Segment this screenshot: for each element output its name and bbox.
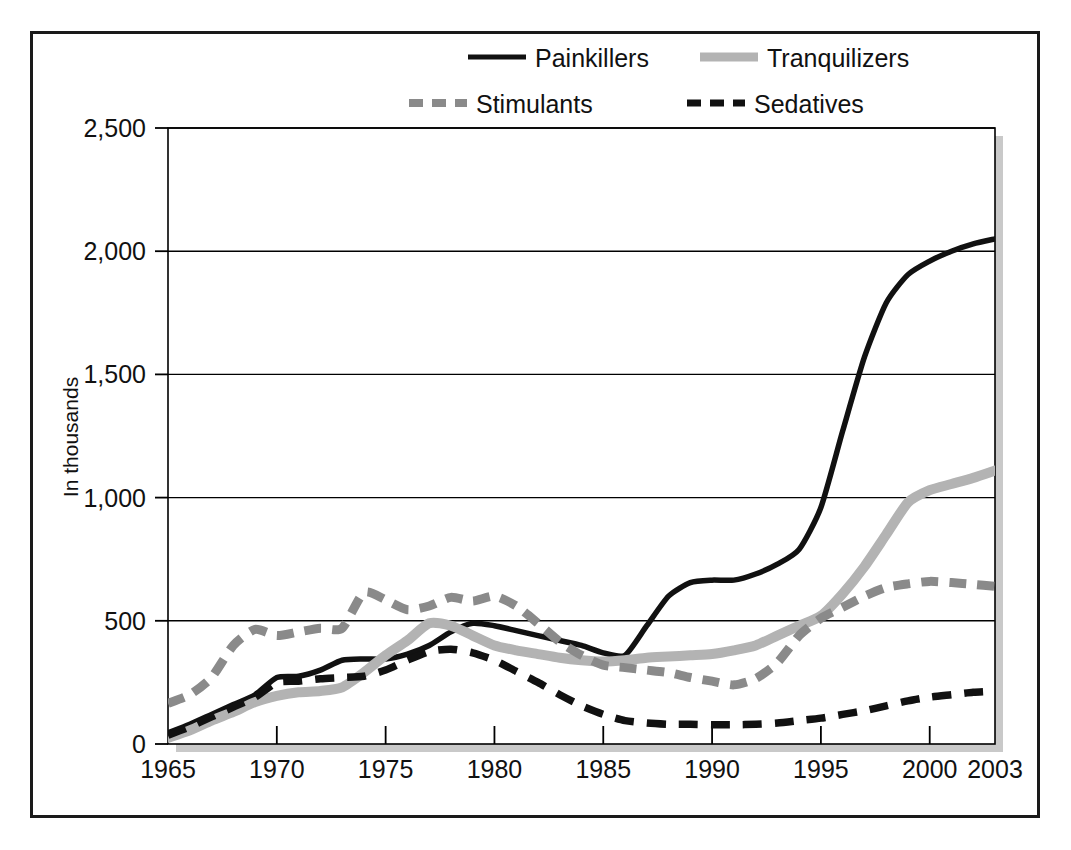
y-tick-label: 500 <box>104 607 146 635</box>
y-tick-label: 1,500 <box>83 360 146 388</box>
y-tick-label: 0 <box>132 730 146 758</box>
legend-label-sedatives: Sedatives <box>754 90 864 118</box>
x-tick-labels: 196519701975198019851990199520002003 <box>140 755 1023 783</box>
x-tick-label: 1980 <box>467 755 523 783</box>
legend-label-tranquilizers: Tranquilizers <box>767 44 909 72</box>
x-tick-label: 2003 <box>967 755 1023 783</box>
y-tick-label: 2,000 <box>83 237 146 265</box>
x-tick-label: 1985 <box>575 755 631 783</box>
x-tick-label: 1965 <box>140 755 196 783</box>
y-tick-label: 2,500 <box>83 114 146 142</box>
legend-label-stimulants: Stimulants <box>476 90 593 118</box>
x-tick-label: 1970 <box>249 755 305 783</box>
x-tick-label: 1995 <box>793 755 849 783</box>
chart-legend: PainkillersTranquilizersStimulantsSedati… <box>409 44 909 118</box>
x-tick-label: 2000 <box>902 755 958 783</box>
x-tick-label: 1990 <box>684 755 740 783</box>
legend-label-painkillers: Painkillers <box>535 44 649 72</box>
line-chart: 05001,0001,5002,0002,500 196519701975198… <box>0 0 1071 850</box>
y-axis-title: In thousands <box>59 377 82 497</box>
y-tick-label: 1,000 <box>83 484 146 512</box>
y-axis-ticks <box>155 128 168 744</box>
y-tick-labels: 05001,0001,5002,0002,500 <box>83 114 146 758</box>
x-tick-label: 1975 <box>358 755 414 783</box>
figure-root: 05001,0001,5002,0002,500 196519701975198… <box>0 0 1071 850</box>
